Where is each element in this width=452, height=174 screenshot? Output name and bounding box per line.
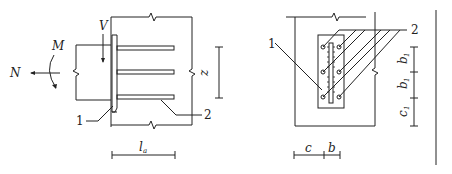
dimension-la: l a [112,140,175,159]
spacing-b-label: b [328,141,336,155]
dimension-chain-horizontal: c b [294,141,340,159]
moment-arrow: M [49,39,65,89]
dimension-chain-vertical: b 1 b 1 c 1 [396,47,418,126]
spacing-b1-mid-subscript: 1 [403,78,411,82]
anchor-length-subscript: a [143,147,147,155]
axial-label: N [9,66,21,80]
spacing-b1-top-subscript: 1 [403,53,411,57]
shear-force-arrow: V [99,19,109,63]
callout-1-label: 1 [76,114,84,128]
embedded-plate [112,35,117,112]
callout-2-left: 2 [161,100,212,122]
axial-force-arrow: N [9,66,60,80]
concrete-member-outline [111,13,195,129]
anchor-bars [117,46,174,99]
anchor-heads [321,45,341,99]
dimension-z: z [197,47,223,98]
left-side-view: V N M 1 2 z [9,13,223,159]
lever-arm-label: z [197,69,211,77]
callout-1-left: 1 [76,106,113,128]
callout-2-label-right: 2 [411,23,419,37]
callout-1-label-right: 1 [268,37,276,51]
edge-c-label: c [305,141,312,155]
steel-beam [73,45,111,100]
edge-c1-label: c [396,110,410,117]
callout-2-label: 2 [204,108,212,122]
callout-2-right: 2 [400,23,419,37]
right-front-view: 1 2 b 1 b 1 c 1 c b [268,10,436,165]
connection-diagram: V N M 1 2 z [0,0,452,174]
welded-bar [327,43,335,103]
moment-label: M [51,39,65,53]
shear-label: V [99,19,109,33]
edge-c1-subscript: 1 [403,106,411,110]
